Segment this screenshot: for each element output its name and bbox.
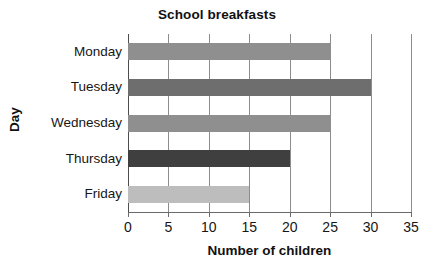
y-category-label-thursday: Thursday — [6, 151, 128, 166]
x-tick-5 — [168, 212, 169, 217]
x-tick-20 — [290, 212, 291, 217]
x-tick-label-35: 35 — [391, 219, 431, 235]
x-tick-15 — [249, 212, 250, 217]
bar-chart-figure: School breakfasts MondayTuesdayWednesday… — [0, 0, 434, 273]
bar-wednesday — [128, 115, 330, 132]
x-tick-label-0: 0 — [108, 219, 148, 235]
gridline-25 — [330, 34, 331, 212]
x-tick-25 — [330, 212, 331, 217]
y-category-label-monday: Monday — [6, 44, 128, 59]
y-category-label-friday: Friday — [6, 186, 128, 201]
x-tick-0 — [128, 212, 129, 217]
x-tick-label-15: 15 — [229, 219, 269, 235]
x-axis-line — [128, 212, 412, 213]
x-tick-10 — [209, 212, 210, 217]
bar-tuesday — [128, 79, 371, 96]
y-category-label-tuesday: Tuesday — [6, 79, 128, 94]
x-axis-title: Number of children — [128, 243, 411, 258]
x-tick-label-20: 20 — [270, 219, 310, 235]
y-category-label-wednesday: Wednesday — [6, 115, 128, 130]
x-tick-30 — [371, 212, 372, 217]
bar-thursday — [128, 150, 290, 167]
gridline-30 — [371, 34, 372, 212]
x-tick-label-25: 25 — [310, 219, 350, 235]
plot-area — [128, 34, 411, 212]
x-tick-label-5: 5 — [148, 219, 188, 235]
bar-monday — [128, 43, 330, 60]
x-tick-label-30: 30 — [351, 219, 391, 235]
x-tick-label-10: 10 — [189, 219, 229, 235]
bar-friday — [128, 186, 249, 203]
x-tick-35 — [411, 212, 412, 217]
gridline-35 — [411, 34, 412, 212]
y-axis-title: Day — [7, 90, 22, 150]
